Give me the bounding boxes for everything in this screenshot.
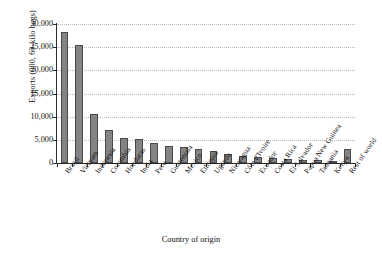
- y-axis-tick-label: 5,000: [7, 136, 53, 144]
- gridline: [57, 47, 355, 48]
- chart-figure: Exports (000, 60-kilo bags) 05,00010,000…: [0, 0, 382, 260]
- gridline: [57, 117, 355, 118]
- y-axis-tick-label: 25,000: [7, 43, 53, 51]
- y-axis-tick-label: 20,000: [7, 66, 53, 74]
- x-axis-tick-mark: [102, 163, 103, 167]
- y-axis-tick-mark: [53, 163, 56, 164]
- gridline: [57, 94, 355, 95]
- y-axis-tick-mark: [53, 70, 56, 71]
- gridline: [57, 70, 355, 71]
- y-axis-tick-mark: [53, 47, 56, 48]
- x-axis-tick-mark: [281, 163, 282, 167]
- x-axis-tick-mark: [57, 163, 58, 167]
- x-axis-tick-mark: [72, 163, 73, 167]
- x-axis-title: Country of origin: [0, 235, 382, 244]
- y-axis-tick-label: 30,000: [7, 20, 53, 28]
- gridline: [57, 140, 355, 141]
- y-axis-tick-mark: [53, 117, 56, 118]
- x-axis-tick-mark: [191, 163, 192, 167]
- x-axis-tick-mark: [87, 163, 88, 167]
- x-axis-tick-mark: [161, 163, 162, 167]
- y-axis-tick-label: 10,000: [7, 113, 53, 121]
- x-axis-tick-mark: [146, 163, 147, 167]
- x-axis-tick-mark: [340, 163, 341, 167]
- y-axis-tick-label: 0: [7, 159, 53, 167]
- bar: [61, 32, 69, 163]
- y-axis-line: [56, 23, 57, 164]
- x-axis-tick-mark: [117, 163, 118, 167]
- x-axis-tick-mark: [132, 163, 133, 167]
- y-axis-tick-mark: [53, 24, 56, 25]
- y-axis-tick-mark: [53, 94, 56, 95]
- gridline: [57, 24, 355, 25]
- bar: [165, 146, 173, 163]
- x-axis-tick-mark: [236, 163, 237, 167]
- x-axis-tick-mark: [251, 163, 252, 167]
- x-axis-tick-mark: [206, 163, 207, 167]
- x-axis-tick-mark: [266, 163, 267, 167]
- x-axis-tick-mark: [325, 163, 326, 167]
- x-axis-tick-mark: [221, 163, 222, 167]
- x-axis-tick-mark: [355, 163, 356, 167]
- y-axis-tick-mark: [53, 140, 56, 141]
- x-axis-tick-mark: [176, 163, 177, 167]
- bar: [75, 45, 83, 163]
- x-axis-tick-mark: [295, 163, 296, 167]
- x-axis-tick-mark: [310, 163, 311, 167]
- y-axis-tick-group: 05,00010,00015,00020,00025,00030,000: [0, 24, 53, 163]
- y-axis-tick-label: 15,000: [7, 90, 53, 98]
